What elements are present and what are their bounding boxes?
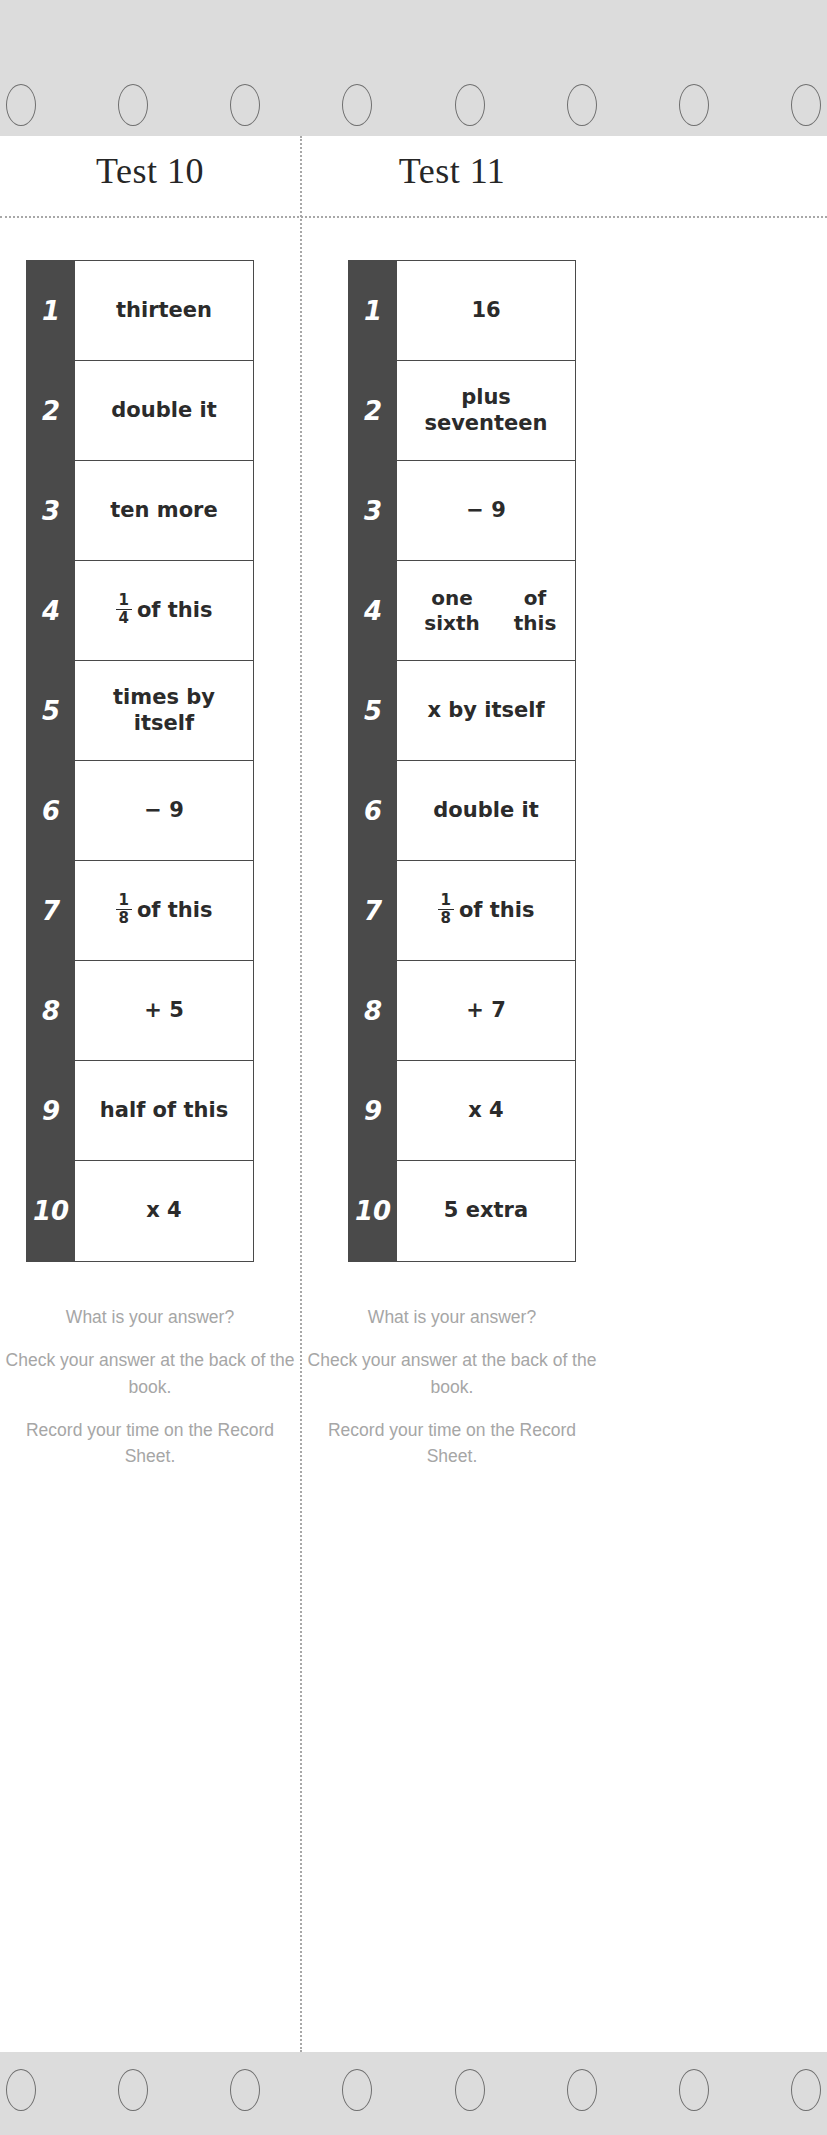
row-instruction: times by itself: [75, 661, 253, 760]
row-number: 3: [27, 461, 75, 560]
binding-hole: [118, 84, 148, 126]
fraction-numerator: 1: [116, 593, 132, 610]
test-column-right: Test 11 1162plus seventeen3− 94one sixth…: [302, 136, 827, 2052]
fraction-suffix: of this: [137, 898, 213, 924]
row-instruction: ten more: [75, 461, 253, 560]
row-number: 2: [27, 361, 75, 460]
table-row: 9half of this: [27, 1061, 253, 1161]
row-number: 5: [27, 661, 75, 760]
table-row: 10x 4: [27, 1161, 253, 1261]
binding-hole: [455, 2069, 485, 2111]
fraction-suffix: of this: [459, 898, 535, 924]
binding-hole: [791, 2069, 821, 2111]
row-number: 2: [349, 361, 397, 460]
binding-hole-row-bottom: [0, 2069, 827, 2111]
row-number: 10: [27, 1161, 75, 1261]
footer-note: Record your time on the Record Sheet.: [0, 1417, 300, 1470]
row-instruction: x 4: [397, 1061, 575, 1160]
footer-note: Check your answer at the back of the boo…: [0, 1347, 300, 1400]
binding-hole: [567, 84, 597, 126]
row-instruction-line: one sixth: [403, 586, 501, 635]
table-row: 5times by itself: [27, 661, 253, 761]
table-row: 3ten more: [27, 461, 253, 561]
fraction: 18: [116, 893, 132, 927]
binding-hole: [679, 84, 709, 126]
table-row: 718of this: [349, 861, 575, 961]
row-instruction: 5 extra: [397, 1161, 575, 1261]
row-number: 1: [27, 261, 75, 360]
table-row: 9x 4: [349, 1061, 575, 1161]
fraction-denominator: 4: [116, 610, 132, 626]
binding-strip-top: [0, 0, 827, 136]
row-instruction: double it: [75, 361, 253, 460]
row-instruction: thirteen: [75, 261, 253, 360]
row-number: 4: [349, 561, 397, 660]
table-row: 2plus seventeen: [349, 361, 575, 461]
page-body: Test 10 1thirteen2double it3ten more414o…: [0, 136, 827, 2052]
table-row: 8+ 5: [27, 961, 253, 1061]
row-instruction: 16: [397, 261, 575, 360]
row-number: 5: [349, 661, 397, 760]
table-row: 105 extra: [349, 1161, 575, 1261]
fraction-numerator: 1: [116, 893, 132, 910]
test-column-left: Test 10 1thirteen2double it3ten more414o…: [0, 136, 300, 2052]
row-instruction: one sixthof this: [397, 561, 575, 660]
test-table-test-10: 1thirteen2double it3ten more414of this5t…: [26, 260, 254, 1262]
row-number: 6: [27, 761, 75, 860]
footer-note: What is your answer?: [0, 1304, 300, 1330]
row-number: 6: [349, 761, 397, 860]
binding-hole: [791, 84, 821, 126]
fraction-suffix: of this: [137, 598, 213, 624]
binding-hole: [342, 2069, 372, 2111]
binding-hole: [230, 2069, 260, 2111]
footer-note: What is your answer?: [302, 1304, 602, 1330]
row-instruction: 18of this: [75, 861, 253, 960]
row-instruction: + 7: [397, 961, 575, 1060]
binding-hole: [118, 2069, 148, 2111]
footer-notes-test-11: What is your answer?Check your answer at…: [302, 1304, 602, 1469]
fraction-denominator: 8: [438, 910, 454, 926]
row-instruction: x by itself: [397, 661, 575, 760]
table-row: 5x by itself: [349, 661, 575, 761]
binding-hole: [679, 2069, 709, 2111]
fraction-numerator: 1: [438, 893, 454, 910]
row-number: 1: [349, 261, 397, 360]
row-number: 7: [27, 861, 75, 960]
binding-hole: [342, 84, 372, 126]
test-table-test-11: 1162plus seventeen3− 94one sixthof this5…: [348, 260, 576, 1262]
table-row: 1thirteen: [27, 261, 253, 361]
row-instruction: 18of this: [397, 861, 575, 960]
table-row: 4one sixthof this: [349, 561, 575, 661]
table-row: 116: [349, 261, 575, 361]
row-instruction: double it: [397, 761, 575, 860]
table-row: 2double it: [27, 361, 253, 461]
row-instruction: plus seventeen: [397, 361, 575, 460]
fraction: 18: [438, 893, 454, 927]
row-number: 9: [27, 1061, 75, 1160]
binding-hole: [6, 84, 36, 126]
row-number: 4: [27, 561, 75, 660]
footer-notes-test-10: What is your answer?Check your answer at…: [0, 1304, 300, 1469]
row-number: 7: [349, 861, 397, 960]
row-instruction: − 9: [75, 761, 253, 860]
table-row: 3− 9: [349, 461, 575, 561]
binding-strip-bottom: [0, 2052, 827, 2135]
row-number: 9: [349, 1061, 397, 1160]
row-instruction: x 4: [75, 1161, 253, 1261]
binding-hole: [455, 84, 485, 126]
row-number: 3: [349, 461, 397, 560]
row-instruction: half of this: [75, 1061, 253, 1160]
row-number: 10: [349, 1161, 397, 1261]
table-row: 6− 9: [27, 761, 253, 861]
row-instruction: − 9: [397, 461, 575, 560]
row-number: 8: [349, 961, 397, 1060]
binding-hole: [230, 84, 260, 126]
fraction-denominator: 8: [116, 910, 132, 926]
row-instruction: + 5: [75, 961, 253, 1060]
page-title-test-10: Test 10: [0, 150, 300, 192]
fraction: 14: [116, 593, 132, 627]
binding-hole: [6, 2069, 36, 2111]
binding-hole-row-top: [0, 84, 827, 126]
table-row: 414of this: [27, 561, 253, 661]
footer-note: Record your time on the Record Sheet.: [302, 1417, 602, 1470]
